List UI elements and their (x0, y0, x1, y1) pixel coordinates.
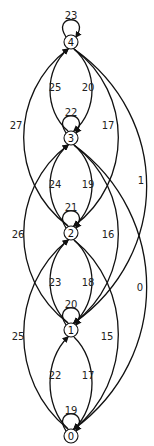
edge-label-1-to-2: 23 (49, 277, 62, 288)
edge-label-3-to-2: 19 (82, 179, 95, 190)
edge-label-4-to-1: 1 (138, 175, 144, 186)
self-loop-label-0: 19 (65, 405, 78, 416)
edge-label-4-to-2: 17 (102, 120, 115, 131)
self-loop-1 (63, 308, 80, 325)
state-node-3: 3 (64, 131, 78, 145)
edge-2-to-4 (24, 49, 68, 226)
node-label: 3 (68, 133, 74, 144)
edge-label-0-to-2: 25 (12, 331, 25, 342)
nodes-layer: 01234 (64, 35, 78, 443)
self-loop-label-3: 22 (65, 107, 78, 118)
edge-label-2-to-4: 27 (10, 120, 23, 131)
edge-label-2-to-0: 15 (101, 331, 114, 342)
self-loop-label-1: 20 (65, 299, 78, 310)
node-label: 0 (68, 431, 74, 442)
edge-label-4-to-3: 20 (82, 82, 95, 93)
edge-label-1-to-3: 26 (12, 229, 25, 240)
self-loop-label-2: 21 (65, 202, 78, 213)
state-node-4: 4 (64, 35, 78, 49)
self-loop-0 (63, 414, 80, 431)
self-loop-2 (63, 211, 80, 228)
self-loop-3 (63, 116, 80, 133)
state-node-2: 2 (64, 226, 78, 240)
self-loop-label-4: 23 (65, 10, 78, 21)
edge-label-1-to-0: 17 (82, 370, 95, 381)
edge-label-0-to-1: 22 (49, 370, 62, 381)
edge-label-3-to-1: 16 (102, 229, 115, 240)
edge-4-to-2 (74, 49, 118, 226)
state-transition-diagram: 01234 2520271712419261602318251522171920… (0, 0, 154, 446)
self-loops-layer (63, 20, 80, 431)
edge-label-2-to-1: 18 (82, 277, 95, 288)
self-loop-4 (63, 20, 80, 37)
state-node-0: 0 (64, 429, 78, 443)
edge-label-3-to-0: 0 (137, 282, 143, 293)
node-label: 1 (68, 325, 74, 336)
edge-label-3-to-4: 25 (49, 82, 62, 93)
state-node-1: 1 (64, 323, 78, 337)
node-label: 2 (68, 228, 74, 239)
edge-0-to-2 (24, 240, 68, 429)
edge-1-to-3 (24, 145, 68, 323)
edge-label-2-to-3: 24 (49, 179, 62, 190)
node-label: 4 (68, 37, 74, 48)
